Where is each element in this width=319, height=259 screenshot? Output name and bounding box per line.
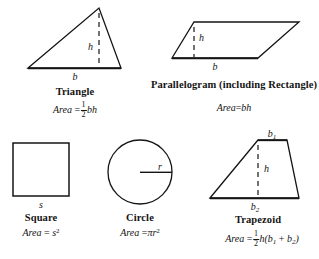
figure-square [5,138,85,204]
trapezoid-fraction-denominator: 2 [253,240,259,249]
triangle-area-formula: Area =12bh [53,101,97,119]
parallelogram-base-label: b [213,62,218,72]
triangle-outline [28,8,121,68]
square-formula-exponent: 2 [56,227,60,235]
trapezoid-formula-fraction: 12 [253,230,259,248]
trapezoid-top-base-label: b1 [268,129,277,141]
triangle-drawing [0,0,140,80]
parallelogram-outline [172,22,299,58]
trapezoid-area-formula: Area =12h(b1 + b2) [225,230,299,248]
triangle-formula-equals: = [74,104,80,115]
trapezoid-formula-close: ) [295,233,298,244]
triangle-formula-prefix: Area [53,104,72,115]
trapezoid-outline [210,140,299,198]
trapezoid-drawing [203,132,313,204]
figure-parallelogram [160,10,310,70]
trapezoid-top-base-subscript: 1 [273,133,277,141]
trapezoid-formula-equals: = [247,233,253,244]
circle-formula-prefix: Area [120,227,139,238]
triangle-base-label: b [73,72,78,82]
triangle-fraction-numerator: 1 [81,101,87,110]
figure-sheet: h b Triangle Area =12bh h b Parallelogra… [0,0,319,259]
parallelogram-formula-prefix: Area [217,102,236,113]
triangle-formula-fraction: 12 [81,101,87,119]
trapezoid-height-label: h [264,164,269,174]
trapezoid-bottom-base-subscript: 2 [256,206,260,214]
figure-trapezoid [203,132,313,204]
square-name-label: Square [25,213,58,224]
circle-formula-exponent: 2 [156,227,160,235]
square-formula-prefix: Area [22,227,41,238]
trapezoid-formula-prefix: Area [225,233,244,244]
triangle-fraction-denominator: 2 [81,111,87,120]
square-side-label: s [39,200,43,210]
triangle-height-label: h [88,42,93,52]
square-drawing [5,138,85,204]
triangle-name-label: Triangle [56,87,95,98]
figure-circle [105,138,185,210]
square-area-formula: Area = s2 [22,228,59,238]
parallelogram-area-formula: Area=bh [217,103,252,113]
trapezoid-formula-h-open: h( [259,233,267,244]
parallelogram-height-label: h [199,33,204,43]
circle-radius-label: r [158,162,162,172]
parallelogram-name-label: Parallelogram (including Rectangle) [151,80,317,91]
trapezoid-name-label: Trapezoid [235,215,281,226]
circle-area-formula: Area =πr2 [120,228,160,238]
parallelogram-formula-tail: bh [241,102,251,113]
triangle-formula-tail: bh [87,104,97,115]
trapezoid-fraction-numerator: 1 [253,230,259,239]
trapezoid-bottom-base-label: b2 [251,202,260,214]
square-outline [13,143,69,196]
figure-triangle [0,0,140,80]
circle-name-label: Circle [126,213,154,224]
parallelogram-drawing [160,10,310,70]
circle-drawing [105,138,185,210]
